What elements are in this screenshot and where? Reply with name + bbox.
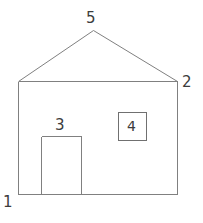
roof-right-slope [94,31,178,82]
label-roof-apex: 5 [86,11,96,26]
house-line-drawing [0,0,203,223]
label-door: 3 [55,118,65,133]
label-right-eave-corner: 2 [182,75,192,90]
house-diagram: 5 2 3 4 1 [0,0,203,223]
label-bottom-left-corner: 1 [3,195,13,210]
label-window: 4 [127,119,136,133]
roof-left-slope [19,31,94,82]
